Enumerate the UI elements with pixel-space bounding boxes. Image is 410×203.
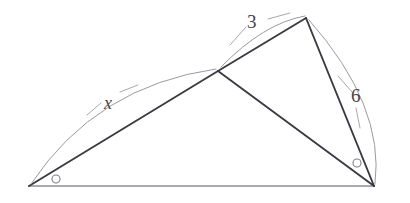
segment-left-to-middle xyxy=(29,71,218,186)
side-label-x: x xyxy=(104,94,112,112)
side-label-six: 6 xyxy=(351,86,361,105)
leader-three-left xyxy=(230,27,246,45)
side-label-three: 3 xyxy=(247,12,257,31)
geometry-diagram: x 3 6 xyxy=(0,0,410,203)
leader-x-right xyxy=(120,85,138,92)
segment-middle-to-apex xyxy=(218,18,306,71)
angle-marker-left-icon xyxy=(52,175,60,183)
leader-six-upper xyxy=(338,76,352,92)
angle-marker-right-icon xyxy=(353,159,361,167)
leader-six-lower xyxy=(356,108,360,128)
geometry-canvas xyxy=(0,0,410,203)
arc-six-measure xyxy=(309,20,376,184)
leader-three-right xyxy=(268,13,290,19)
arc-x-measure xyxy=(31,69,216,184)
